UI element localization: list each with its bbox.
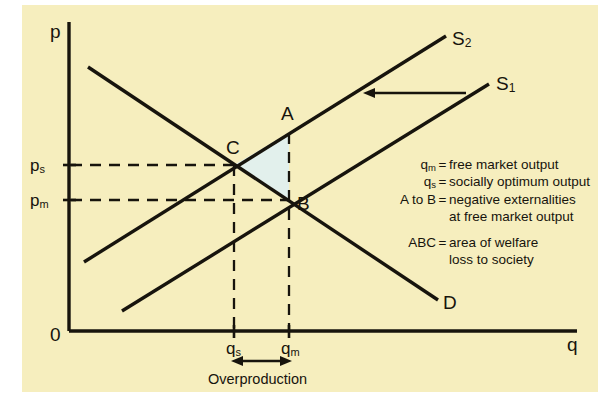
- point-label-c: C: [226, 138, 240, 157]
- legend-eq-qm: =: [436, 156, 449, 173]
- tick-label-pm-sub: m: [39, 198, 48, 210]
- tick-label-qm: qm: [281, 340, 300, 357]
- legend-key-qs: qs: [362, 173, 436, 190]
- y-axis-label: p: [50, 22, 61, 41]
- curve-label-s2: S2: [452, 29, 471, 48]
- tick-label-pm: pm: [30, 192, 49, 209]
- curve-label-s1-text: S: [496, 73, 509, 94]
- origin-label: 0: [50, 325, 61, 344]
- point-label-b: B: [297, 194, 310, 213]
- legend-value-abc: area of welfare: [449, 234, 594, 251]
- legend-key-qm-sub: m: [428, 162, 436, 173]
- legend-eq-abc: =: [436, 234, 449, 251]
- x-axis-label: q: [567, 335, 578, 354]
- diagram-root: p q 0 ps pm qs qm S2 S1 D A B C qm = fre…: [0, 0, 610, 413]
- tick-label-ps-sub: s: [39, 163, 45, 175]
- supply-shift-arrow-icon: [363, 88, 466, 98]
- legend-item-qm: qm = free market output: [362, 156, 594, 173]
- curve-label-s1: S1: [496, 74, 515, 93]
- tick-label-qm-sub: m: [290, 346, 299, 358]
- legend-eq-atob: =: [436, 191, 449, 208]
- curve-label-s2-sub: 2: [465, 36, 472, 50]
- legend: qm = free market output qs = socially op…: [362, 156, 594, 269]
- tick-label-qs-sub: s: [235, 346, 241, 358]
- legend-eq-qs: =: [436, 173, 449, 190]
- legend-value-qm: free market output: [449, 156, 594, 173]
- legend-key-qs-sub: s: [431, 179, 436, 190]
- legend-key-atob: A to B: [362, 191, 436, 208]
- legend-value-qs: socially optimum output: [449, 173, 594, 190]
- legend-value-atob: negative externalities: [449, 191, 594, 208]
- curve-label-s1-sub: 1: [509, 81, 516, 95]
- legend-item-qs: qs = socially optimum output: [362, 173, 594, 190]
- legend-key-qm: qm: [362, 156, 436, 173]
- overproduction-label: Overproduction: [208, 371, 307, 387]
- tick-label-qs: qs: [226, 340, 241, 357]
- legend-value-atob-cont: at free market output: [449, 208, 594, 225]
- legend-item-atob: A to B = negative externalities: [362, 191, 594, 208]
- curve-label-d: D: [443, 293, 457, 312]
- curve-label-s2-text: S: [452, 28, 465, 49]
- welfare-loss-triangle: [234, 133, 289, 200]
- legend-key-qm-text: q: [421, 157, 429, 172]
- legend-item-abc: ABC = area of welfare: [362, 234, 594, 251]
- legend-key-abc: ABC: [362, 234, 436, 251]
- point-label-a: A: [281, 104, 294, 123]
- tick-label-ps: ps: [30, 157, 45, 174]
- legend-value-abc-cont: loss to society: [449, 251, 594, 268]
